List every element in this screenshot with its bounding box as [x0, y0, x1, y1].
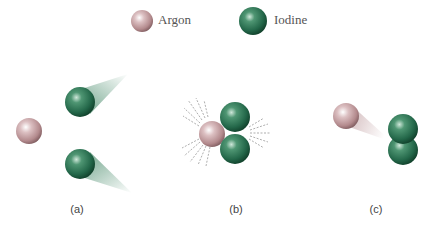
- iodine-atom: [220, 102, 250, 132]
- argon-legend-label: Argon: [158, 12, 191, 28]
- diagram: Argon Iodine (a) (b) (c): [0, 0, 427, 227]
- argon-legend-icon: [131, 10, 153, 32]
- panel-b-label: (b): [229, 203, 242, 215]
- iodine-atom: [220, 134, 250, 164]
- argon-atom: [333, 103, 359, 129]
- diagram-canvas: [0, 0, 427, 227]
- panel-b: [182, 98, 270, 166]
- panel-a: [16, 74, 132, 193]
- argon-atom: [199, 121, 225, 147]
- iodine-atom: [388, 114, 418, 144]
- legend: [131, 7, 267, 35]
- iodine-atom: [65, 149, 95, 179]
- argon-atom: [16, 118, 42, 144]
- iodine-legend-icon: [239, 7, 267, 35]
- iodine-legend-label: Iodine: [274, 12, 307, 28]
- panel-c: [333, 103, 418, 165]
- iodine-atom: [65, 87, 95, 117]
- panel-a-label: (a): [70, 203, 83, 215]
- panel-c-label: (c): [370, 203, 383, 215]
